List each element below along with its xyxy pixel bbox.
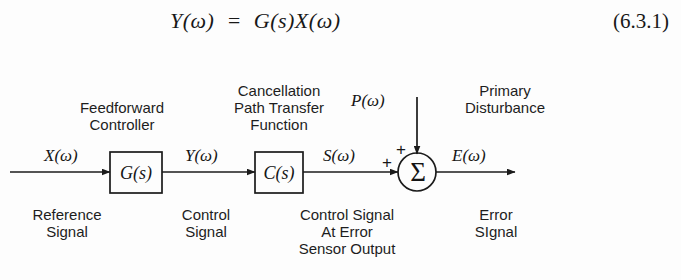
signal-label-controller-output: Y(ω) (185, 146, 218, 166)
signal-label-disturbance: P(ω) (351, 91, 385, 111)
sum-sign-left: + (382, 154, 392, 171)
signal-label-cancellation-output: S(ω) (323, 146, 355, 166)
block-label-cancellation-path: C(s) (255, 163, 303, 184)
title-primary-disturbance: Primary Disturbance (439, 82, 571, 116)
title-cancellation-path: Cancellation Path Transfer Function (215, 82, 343, 133)
caption-control-signal-at-error-sensor: Control Signal At Error Sensor Output (272, 206, 422, 257)
signal-label-input: X(ω) (44, 146, 78, 166)
caption-control-signal: Control Signal (158, 206, 254, 240)
caption-reference-signal: Reference Signal (8, 206, 126, 240)
summation-symbol: Σ (406, 159, 430, 186)
sum-sign-top: + (396, 141, 406, 158)
caption-error-signal: Error SIgnal (444, 206, 548, 240)
figure-page: Y(ω) = G(s)X(ω) (6.3.1) G(s) C(s) Σ + + (0, 0, 681, 280)
title-feedforward-controller: Feedforward Controller (66, 99, 178, 133)
block-label-feedforward-controller: G(s) (110, 163, 162, 184)
signal-label-error: E(ω) (452, 146, 486, 166)
